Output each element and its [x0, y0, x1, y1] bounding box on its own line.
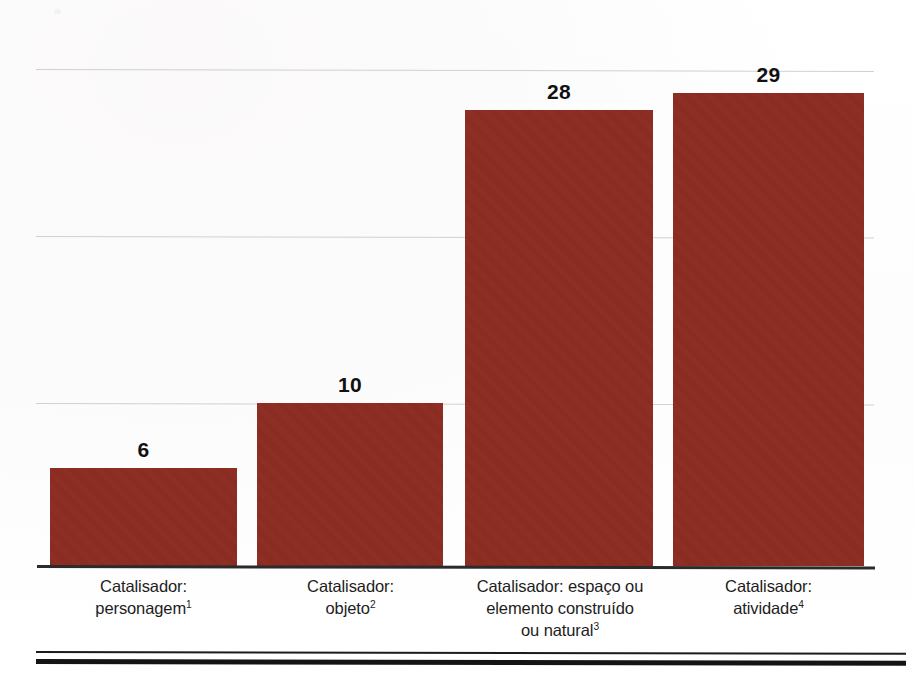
category-line-2: objeto [326, 599, 370, 617]
plot-area: 6 10 28 29 Catalisador: personagem1 Cata… [0, 0, 914, 685]
footnote-marker-3: 3 [593, 620, 599, 631]
bar-catalisador-atividade [673, 93, 864, 566]
x-axis-baseline [37, 565, 875, 569]
value-label-espaco-elemento: 28 [465, 80, 653, 104]
category-line-1: Catalisador: [725, 577, 812, 595]
footnote-marker-1: 1 [186, 598, 192, 609]
category-line-2: atividade [733, 599, 798, 617]
category-line-1: Catalisador: [100, 577, 187, 595]
value-label-objeto: 10 [257, 373, 443, 397]
category-line-1: Catalisador: [307, 577, 394, 595]
category-label-personagem: Catalisador: personagem1 [38, 576, 249, 620]
value-label-atividade: 29 [673, 63, 864, 87]
footnote-marker-2: 2 [370, 598, 376, 609]
category-line-1: Catalisador: espaço ou [477, 577, 644, 595]
footer-rule-thin [36, 651, 906, 655]
category-label-espaco-elemento: Catalisador: espaço ou elemento construí… [450, 576, 670, 642]
bar-chart-figure: 6 10 28 29 Catalisador: personagem1 Cata… [0, 0, 914, 685]
category-line-2: elemento construído [486, 599, 634, 617]
bar-catalisador-espaco-elemento [465, 110, 653, 566]
category-line-3: ou natural [521, 621, 593, 639]
category-line-2: personagem [95, 599, 186, 617]
bar-catalisador-objeto [257, 403, 443, 566]
footer-rule-thick [36, 659, 906, 666]
category-label-objeto: Catalisador: objeto2 [245, 576, 456, 620]
category-label-atividade: Catalisador: atividade4 [663, 576, 874, 620]
value-label-personagem: 6 [50, 438, 237, 462]
bar-catalisador-personagem [50, 468, 237, 566]
footnote-marker-4: 4 [798, 598, 804, 609]
